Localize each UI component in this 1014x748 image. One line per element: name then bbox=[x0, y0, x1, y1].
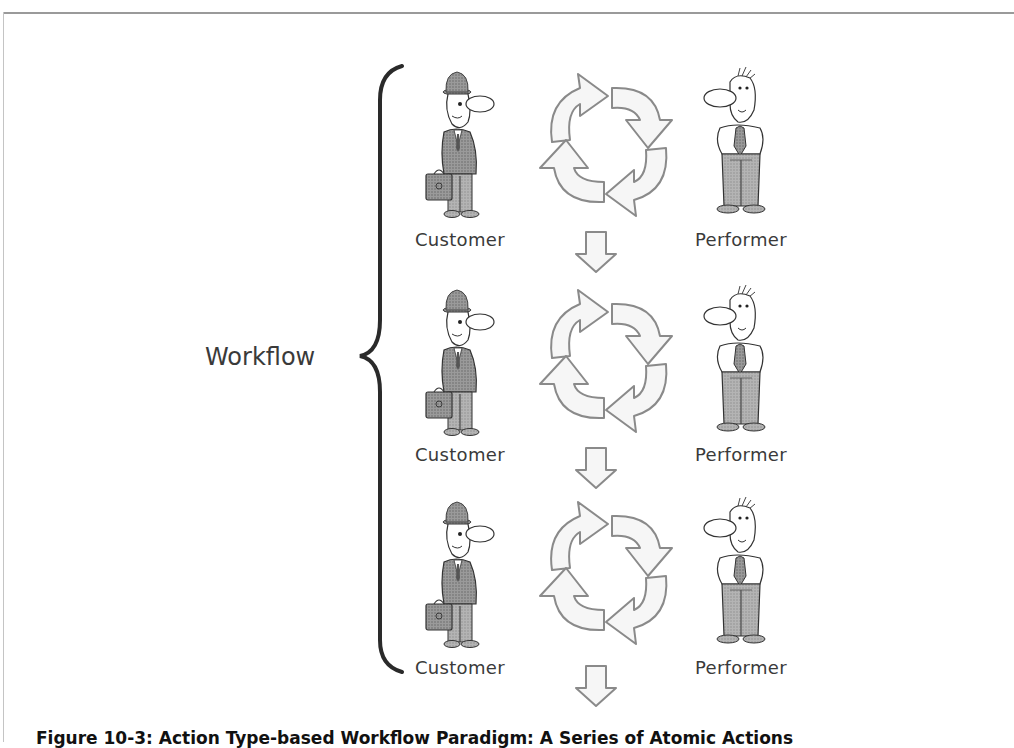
down-arrow-icon bbox=[576, 666, 616, 706]
performer-figure bbox=[704, 67, 765, 213]
performer-figure bbox=[704, 285, 765, 431]
customer-label: Customer bbox=[415, 444, 505, 465]
performer-label: Performer bbox=[695, 444, 787, 465]
cycle-arrows-icon bbox=[540, 74, 672, 216]
customer-figure bbox=[426, 290, 494, 436]
performer-label: Performer bbox=[695, 229, 787, 250]
workflow-label: Workflow bbox=[205, 343, 315, 371]
customer-figure bbox=[426, 72, 494, 218]
customer-figure bbox=[426, 502, 494, 648]
performer-figure bbox=[704, 497, 765, 643]
cycle-arrows-icon bbox=[540, 502, 672, 644]
down-arrow-icon bbox=[576, 232, 616, 272]
performer-label: Performer bbox=[695, 657, 787, 678]
down-arrow-icon bbox=[576, 448, 616, 488]
customer-label: Customer bbox=[415, 657, 505, 678]
figure-caption: Figure 10-3: Action Type-based Workflow … bbox=[36, 728, 793, 748]
customer-label: Customer bbox=[415, 229, 505, 250]
curly-brace bbox=[360, 66, 402, 672]
cycle-arrows-icon bbox=[540, 290, 672, 432]
